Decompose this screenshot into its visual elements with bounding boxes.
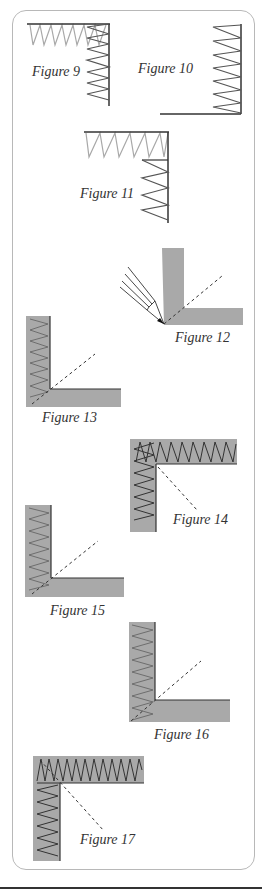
figure-17-diagram bbox=[0, 0, 270, 890]
bottom-divider bbox=[0, 887, 262, 889]
figure-17-caption: Figure 17 bbox=[80, 832, 135, 848]
